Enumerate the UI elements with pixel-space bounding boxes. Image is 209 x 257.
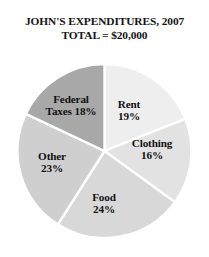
pie-slice-label-federal-taxes: FederalTaxes 18% [46, 93, 97, 117]
pie-slice-label-rent: Rent19% [118, 98, 141, 122]
pie-slice-label-food: Food24% [92, 191, 117, 215]
chart-title: JOHN'S EXPENDITURES, 2007 [0, 14, 209, 28]
pie-chart-svg: Rent19%Clothing16%Food24%Other23%Federal… [0, 46, 209, 257]
chart-subtitle-total: TOTAL = $20,000 [0, 28, 209, 42]
pie-chart-figure: JOHN'S EXPENDITURES, 2007 TOTAL = $20,00… [0, 0, 209, 257]
chart-title-block: JOHN'S EXPENDITURES, 2007 TOTAL = $20,00… [0, 14, 209, 43]
pie-slice-label-other: Other23% [38, 150, 66, 174]
